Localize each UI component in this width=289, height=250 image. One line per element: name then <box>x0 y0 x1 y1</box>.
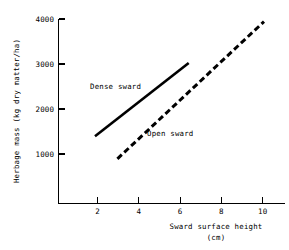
x-axis-title: Sward surface height <box>170 222 263 231</box>
x-axis-ticks <box>98 197 263 204</box>
series-line-dense-sward <box>95 63 189 136</box>
x-tick-label-10: 10 <box>258 207 268 216</box>
y-tick-label-1000: 1000 <box>36 150 55 159</box>
y-axis-ticks <box>59 19 66 154</box>
x-tick-label-2: 2 <box>95 207 100 216</box>
annotation-open-sward: Open sward <box>147 129 194 138</box>
chart-canvas: 4000 3000 2000 1000 2 4 6 8 10 Dense swa… <box>0 0 289 250</box>
x-tick-label-4: 4 <box>136 207 141 216</box>
x-tick-label-6: 6 <box>178 207 183 216</box>
y-tick-label-2000: 2000 <box>36 105 55 114</box>
y-tick-label-4000: 4000 <box>36 15 55 24</box>
x-axis-tick-labels: 2 4 6 8 10 <box>95 207 268 216</box>
y-tick-label-3000: 3000 <box>36 60 55 69</box>
annotation-dense-sward: Dense sward <box>90 82 141 91</box>
y-axis-title: Herbage mass (kg dry matter/ha) <box>12 39 21 183</box>
chart-figure: 4000 3000 2000 1000 2 4 6 8 10 Dense swa… <box>0 0 289 250</box>
y-axis-tick-labels: 4000 3000 2000 1000 <box>36 15 55 159</box>
x-tick-label-8: 8 <box>219 207 224 216</box>
x-axis-title-units: (cm) <box>207 233 226 242</box>
